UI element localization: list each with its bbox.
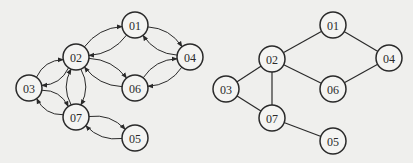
- node-label: 06: [327, 83, 339, 97]
- node-label: 05: [327, 135, 339, 149]
- node-label: 03: [220, 83, 232, 97]
- undirected-graph: 01020304060705: [0, 0, 413, 163]
- node-label: 01: [327, 19, 339, 33]
- node-03: 03: [213, 76, 239, 102]
- node-01: 01: [320, 12, 346, 38]
- node-06: 06: [320, 76, 346, 102]
- node-05: 05: [320, 128, 346, 154]
- node-02: 02: [259, 46, 285, 72]
- diagram-canvas: 01020304060705 01020304060705: [0, 0, 413, 163]
- node-label: 04: [383, 52, 395, 66]
- node-07: 07: [259, 105, 285, 131]
- node-label: 02: [266, 53, 278, 67]
- node-label: 07: [266, 112, 278, 126]
- node-04: 04: [376, 45, 402, 71]
